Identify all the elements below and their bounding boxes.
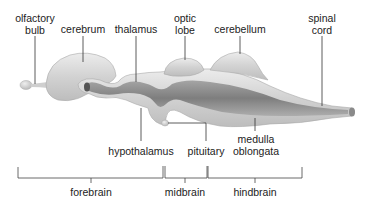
label-text: midbrain: [165, 186, 205, 198]
label-pituitary: pituitary: [188, 145, 225, 157]
label-text: medulla: [233, 133, 279, 145]
label-text: olfactory: [15, 12, 55, 24]
label-hindbrain: hindbrain: [233, 186, 276, 198]
division-brackets: [18, 166, 302, 183]
spinal-cord-end: [349, 108, 355, 117]
label-cerebrum: cerebrum: [61, 23, 105, 35]
label-olfactory-bulb: olfactory bulb: [15, 12, 55, 36]
optic-lobe-shape: [164, 58, 204, 76]
label-text: cerebrum: [61, 23, 105, 35]
brain-diagram: olfactory bulb cerebrum thalamus optic l…: [0, 0, 370, 208]
interventricular-foramen-shape: [84, 83, 90, 92]
label-text: cord: [308, 24, 335, 36]
label-text: oblongata: [233, 145, 279, 157]
label-text: pituitary: [188, 145, 225, 157]
label-cerebellum: cerebellum: [214, 23, 265, 35]
label-text: thalamus: [115, 23, 158, 35]
label-midbrain: midbrain: [165, 186, 205, 198]
label-forebrain: forebrain: [70, 186, 111, 198]
pituitary-shape: [162, 120, 169, 126]
label-text: hindbrain: [233, 186, 276, 198]
label-text: cerebellum: [214, 23, 265, 35]
label-thalamus: thalamus: [115, 23, 158, 35]
label-text: bulb: [15, 24, 55, 36]
label-text: optic: [174, 12, 196, 24]
label-hypothalamus: hypothalamus: [108, 145, 173, 157]
label-spinal-cord: spinal cord: [308, 12, 335, 36]
label-text: lobe: [174, 24, 196, 36]
label-optic-lobe: optic lobe: [174, 12, 196, 36]
label-text: hypothalamus: [108, 145, 173, 157]
label-text: spinal: [308, 12, 335, 24]
label-text: forebrain: [70, 186, 111, 198]
label-medulla-oblongata: medulla oblongata: [233, 133, 279, 157]
olfactory-bulb-shape: [20, 81, 48, 90]
